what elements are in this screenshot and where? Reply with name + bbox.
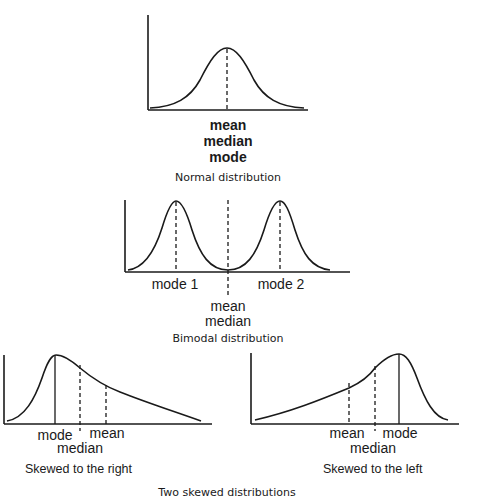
normal-caption: Normal distribution [175,171,281,184]
skew-left-label-mean: mean [329,425,364,441]
skew-right-curve [7,355,201,421]
skew-left-label-median: median [350,440,396,456]
normal-label-median: median [203,133,252,149]
skew-left-curve [255,354,448,420]
bimodal-label-mode1: mode 1 [152,276,199,292]
normal-label-mode: mode [209,149,247,165]
skew-left-caption: Skewed to the left [323,462,423,476]
bimodal-distribution-panel: mode 1 mode 2 mean median Bimodal distri… [125,200,350,345]
skew-right-caption: Skewed to the right [25,462,133,476]
bimodal-label-mean: mean [210,298,245,314]
bimodal-label-median: median [205,313,251,329]
bimodal-label-mode2: mode 2 [258,276,305,292]
skew-right-label-mean: mean [89,425,124,441]
bimodal-caption: Bimodal distribution [172,332,283,345]
normal-distribution-panel: mean median mode Normal distribution [148,15,308,184]
skew-left-label-mode: mode [382,425,417,441]
normal-label-mean: mean [210,117,247,133]
skew-left-panel: mean mode median Skewed to the left [251,353,459,476]
skew-right-panel: mode mean median Skewed to the right [4,355,212,476]
distribution-shapes-diagram: mean median mode Normal distribution mod… [0,0,484,501]
bimodal-curve [128,201,330,270]
skewed-distributions-caption: Two skewed distributions [157,486,296,499]
skew-right-label-median: median [57,440,103,456]
